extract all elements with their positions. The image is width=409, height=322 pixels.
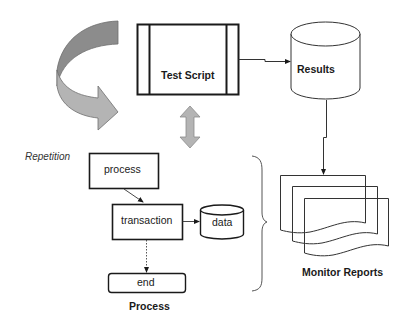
transaction-label: transaction bbox=[121, 215, 172, 226]
edge-test-script-to-results bbox=[239, 60, 291, 62]
results-label: Results bbox=[297, 64, 335, 75]
test-script-node bbox=[138, 25, 239, 95]
brace-icon bbox=[252, 156, 267, 291]
monitor-reports-node bbox=[281, 176, 389, 256]
repetition-label: Repetition bbox=[25, 152, 70, 162]
process-group-label: Process bbox=[129, 301, 170, 312]
edge-results-to-reports bbox=[324, 100, 327, 174]
curved-arrow-icon bbox=[57, 21, 118, 130]
test-script-label: Test Script bbox=[161, 70, 214, 81]
diagram-canvas: Test Script Results Repetition process t… bbox=[0, 0, 409, 322]
edge-process-to-transaction bbox=[124, 189, 143, 202]
end-label: end bbox=[137, 277, 155, 288]
results-node bbox=[291, 22, 360, 99]
double-arrow-icon bbox=[180, 106, 200, 148]
monitor-reports-label: Monitor Reports bbox=[302, 267, 383, 278]
process-label: process bbox=[104, 164, 141, 175]
data-label: data bbox=[212, 217, 232, 228]
